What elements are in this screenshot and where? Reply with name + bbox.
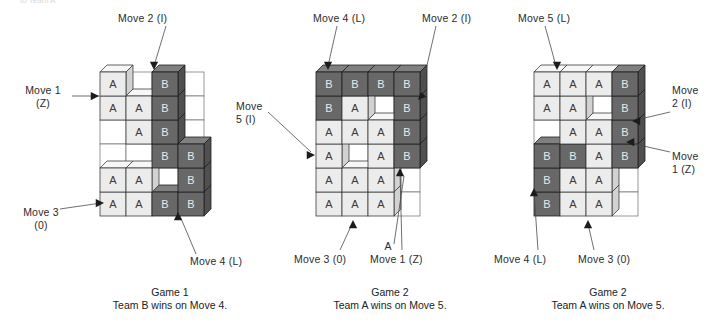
- caption-game-2-result: Team A wins on Move 5.: [280, 299, 500, 312]
- arrowhead: [396, 168, 404, 176]
- arrowhead: [584, 220, 592, 228]
- leader-line-cell-marker-a: [394, 176, 404, 244]
- arrowhead: [324, 62, 332, 70]
- annotation-game-2-move-5-i: Move 5 (I): [236, 100, 284, 125]
- caption-game-2-title: Game 2: [280, 286, 500, 299]
- leader-line-move-2-i: [636, 112, 670, 120]
- arrowhead: [174, 212, 182, 220]
- arrowhead: [530, 188, 538, 196]
- annotation-game-3-move-2-i: Move 2 (I): [672, 84, 716, 109]
- annotation-game-2-move-1-z: Move 1 (Z): [370, 253, 434, 266]
- annotation-game-1-move-3-o: Move 3 (0): [12, 206, 70, 231]
- leader-line-move-2-i: [420, 26, 436, 96]
- leader-line-move-1-z: [400, 172, 402, 250]
- caption-game-3-result: Team A wins on Move 5.: [498, 299, 718, 312]
- leader-line-move-4-l: [180, 216, 196, 254]
- arrowhead: [96, 199, 104, 207]
- leader-line-move-4-l: [534, 192, 538, 250]
- leader-line-move-4-l: [328, 26, 337, 66]
- annotation-game-2-move-2-i: Move 2 (I): [422, 12, 484, 25]
- leader-line-move-1-z: [630, 143, 670, 152]
- annotation-game-3-move-1-z: Move 1 (Z): [672, 150, 716, 175]
- arrowhead: [418, 92, 426, 100]
- annotation-game-2-move-3-o: Move 3 (0): [294, 253, 358, 266]
- caption-game-2: Game 2Team A wins on Move 5.: [280, 286, 500, 312]
- caption-game-1-result: Team B wins on Move 4.: [60, 299, 280, 312]
- arrowhead: [553, 62, 561, 70]
- leader-line-move-5-l: [545, 26, 556, 66]
- annotation-game-1-move-2-i: Move 2 (I): [118, 12, 180, 25]
- caption-game-1: Game 1Team B wins on Move 4.: [60, 286, 280, 312]
- annotation-game-3-move-5-l: Move 5 (L): [518, 12, 582, 25]
- arrowhead: [349, 220, 357, 228]
- caption-game-1-title: Game 1: [60, 286, 280, 299]
- annotation-game-2-move-4-l: Move 4 (L): [313, 12, 377, 25]
- leader-line-move-2-i: [154, 26, 166, 66]
- annotation-game-3-move-4-l: Move 4 (L): [494, 253, 558, 266]
- caption-game-3-title: Game 2: [498, 286, 718, 299]
- arrowhead: [626, 138, 634, 146]
- caption-game-3: Game 2Team A wins on Move 5.: [498, 286, 718, 312]
- arrowhead: [91, 92, 99, 100]
- annotation-game-1-move-1-z: Move 1 (Z): [14, 84, 72, 109]
- annotation-game-1-move-4-l: Move 4 (L): [190, 255, 254, 268]
- arrowhead: [150, 62, 158, 70]
- annotation-game-3-move-3-o: Move 3 (0): [578, 253, 642, 266]
- arrowhead: [632, 117, 640, 125]
- annotation-lines-layer: [0, 0, 719, 329]
- figure-stage: to Team A AABBAABBBABAABABAAAAAAAABAAABB…: [0, 0, 719, 329]
- annotation-game-2-cell-marker-a: A: [382, 240, 394, 253]
